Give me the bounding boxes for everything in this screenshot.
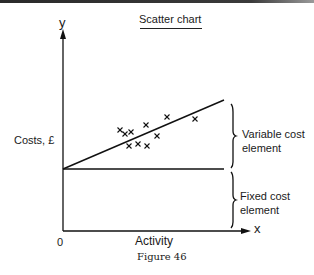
x-axis-arrow-icon [241, 228, 251, 234]
fixed-cost-line2: element [240, 203, 290, 217]
y-axis-arrow-icon [60, 29, 66, 39]
figure-caption: Figure 46 [137, 251, 187, 263]
fixed-cost-annotation: Fixed cost element [240, 189, 290, 217]
variable-cost-line2: element [242, 141, 305, 155]
variable-cost-annotation: Variable cost element [242, 127, 305, 155]
y-axis-symbol: y [59, 17, 66, 29]
variable-cost-bracket [231, 104, 236, 168]
title-underline [140, 28, 202, 29]
point-marker-icon [136, 142, 141, 147]
point-marker-icon [155, 134, 160, 139]
point-marker-icon [165, 115, 170, 120]
total-cost-line [63, 100, 224, 169]
fixed-cost-bracket [231, 172, 236, 228]
x-axis-symbol: x [254, 223, 261, 235]
chart-title: Scatter chart [139, 13, 201, 25]
variable-cost-line1: Variable cost [242, 127, 305, 141]
point-marker-icon [144, 123, 149, 128]
origin-label: 0 [57, 236, 63, 248]
point-marker-icon [145, 144, 150, 149]
point-marker-icon [123, 132, 128, 137]
scatter-points [118, 115, 198, 149]
point-marker-icon [118, 128, 123, 133]
point-marker-icon [129, 130, 134, 135]
x-axis-label: Activity [135, 235, 173, 247]
fixed-cost-line1: Fixed cost [240, 189, 290, 203]
y-axis-label: Costs, £ [14, 134, 54, 146]
point-marker-icon [193, 117, 198, 122]
point-marker-icon [127, 144, 132, 149]
